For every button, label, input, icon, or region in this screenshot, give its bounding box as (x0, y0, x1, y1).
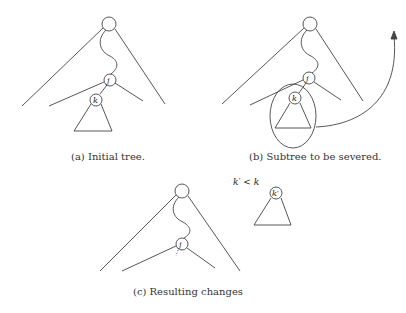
caption-c: (c) Resulting changes (133, 286, 243, 297)
root-node (175, 184, 189, 198)
sever-arrow (316, 36, 395, 127)
node-j (303, 72, 315, 84)
label-k: k (93, 96, 98, 105)
label-k-prime: k′ (272, 189, 279, 198)
label-k: k (292, 94, 297, 103)
root-node (102, 17, 116, 31)
path-squiggle (173, 197, 190, 238)
subtree-triangle (275, 103, 311, 128)
caption-b: (b) Subtree to be severed. (249, 151, 382, 162)
path-squiggle (100, 30, 117, 74)
arrow-head (391, 31, 397, 39)
caption-a: (a) Initial tree. (71, 151, 145, 162)
panel-c-tree (100, 184, 291, 271)
severed-subtree-triangle (254, 198, 291, 225)
inequality-annotation: k′ < k (233, 177, 259, 187)
panel-b-tree (222, 17, 397, 148)
root-node (303, 17, 317, 31)
node-j (104, 74, 116, 86)
node-j (176, 238, 188, 250)
subtree-triangle (74, 104, 112, 131)
panel-a-tree (22, 17, 165, 131)
path-squiggle (301, 30, 318, 73)
